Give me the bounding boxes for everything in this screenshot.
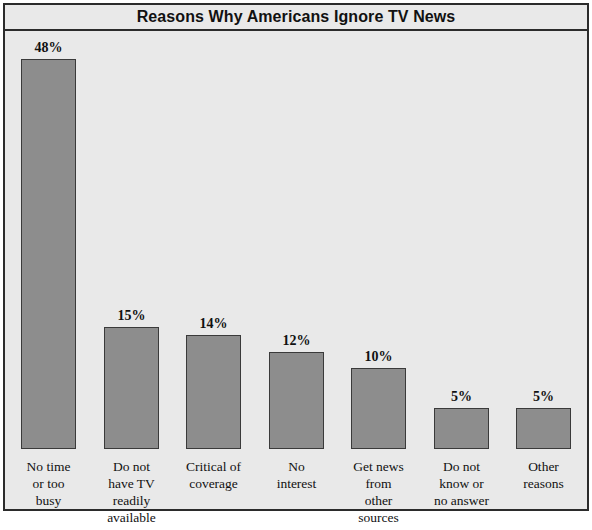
bar-group: 5%Otherreasons — [516, 31, 571, 509]
bar-category-line: no answer — [424, 492, 499, 509]
bar-category-label: No timeor toobusy — [11, 458, 86, 509]
bars-layer: 48%No timeor toobusy15%Do nothave TVread… — [5, 31, 587, 509]
chart-frame: Reasons Why Americans Ignore TV News 48%… — [3, 3, 589, 511]
bar-rect[interactable] — [351, 368, 406, 449]
bar-category-line: from — [341, 475, 416, 492]
bar-value-label: 14% — [186, 316, 241, 332]
bar-category-line: No — [259, 458, 334, 475]
bar-category-line: coverage — [176, 475, 251, 492]
bar-category-line: know or — [424, 475, 499, 492]
bar-category-line: reasons — [506, 475, 581, 492]
bar-value-label: 5% — [434, 389, 489, 405]
bar-group: 5%Do notknow orno answer — [434, 31, 489, 509]
bar-category-line: have TV — [94, 475, 169, 492]
bar-rect[interactable] — [186, 335, 241, 449]
bar-category-label: Do nothave TVreadilyavailable — [94, 458, 169, 526]
bar-rect[interactable] — [269, 352, 324, 449]
page-title: Reasons Why Americans Ignore TV News — [137, 8, 456, 26]
bar-category-line: Do not — [94, 458, 169, 475]
bar-rect[interactable] — [434, 408, 489, 449]
plot-area: 48%No timeor toobusy15%Do nothave TVread… — [5, 31, 587, 509]
bar-value-label: 15% — [104, 308, 159, 324]
chart-figure: Reasons Why Americans Ignore TV News 48%… — [0, 0, 592, 530]
bar-category-line: readily — [94, 492, 169, 509]
bar-group: 48%No timeor toobusy — [21, 31, 76, 509]
bar-category-line: busy — [11, 492, 86, 509]
bar-value-label: 48% — [21, 40, 76, 56]
bar-category-line: available — [94, 509, 169, 526]
bar-category-label: Otherreasons — [506, 458, 581, 492]
bar-category-label: Critical ofcoverage — [176, 458, 251, 492]
bar-rect[interactable] — [104, 327, 159, 449]
bar-rect[interactable] — [21, 59, 76, 449]
bar-category-line: sources — [341, 509, 416, 526]
bar-value-label: 10% — [351, 349, 406, 365]
bar-category-label: Nointerest — [259, 458, 334, 492]
bar-category-line: other — [341, 492, 416, 509]
bar-value-label: 12% — [269, 333, 324, 349]
bar-category-line: No time — [11, 458, 86, 475]
bar-group: 12%Nointerest — [269, 31, 324, 509]
bar-rect[interactable] — [516, 408, 571, 449]
bar-category-line: or too — [11, 475, 86, 492]
bar-group: 10%Get newsfromothersources — [351, 31, 406, 509]
bar-category-label: Do notknow orno answer — [424, 458, 499, 509]
bar-category-label: Get newsfromothersources — [341, 458, 416, 526]
bar-category-line: Other — [506, 458, 581, 475]
chart-title-band: Reasons Why Americans Ignore TV News — [5, 5, 587, 31]
bar-group: 14%Critical ofcoverage — [186, 31, 241, 509]
bar-group: 15%Do nothave TVreadilyavailable — [104, 31, 159, 509]
bar-category-line: Get news — [341, 458, 416, 475]
bar-category-line: Do not — [424, 458, 499, 475]
bar-category-line: Critical of — [176, 458, 251, 475]
bar-category-line: interest — [259, 475, 334, 492]
bar-value-label: 5% — [516, 389, 571, 405]
